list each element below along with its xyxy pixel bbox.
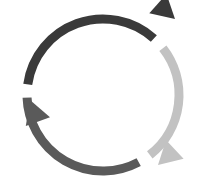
medium-arrowhead-icon: [26, 100, 50, 126]
cycle-diagram-canvas: [0, 0, 204, 194]
cycle-segment-light: [150, 48, 184, 165]
light-arc-path: [150, 48, 179, 155]
cycle-diagram: [0, 0, 204, 194]
dark-arrowhead-icon: [149, 0, 175, 19]
dark-arc-path: [28, 19, 154, 84]
cycle-segment-medium: [26, 98, 139, 171]
medium-arc-path: [27, 98, 139, 171]
cycle-segment-dark: [28, 0, 175, 84]
